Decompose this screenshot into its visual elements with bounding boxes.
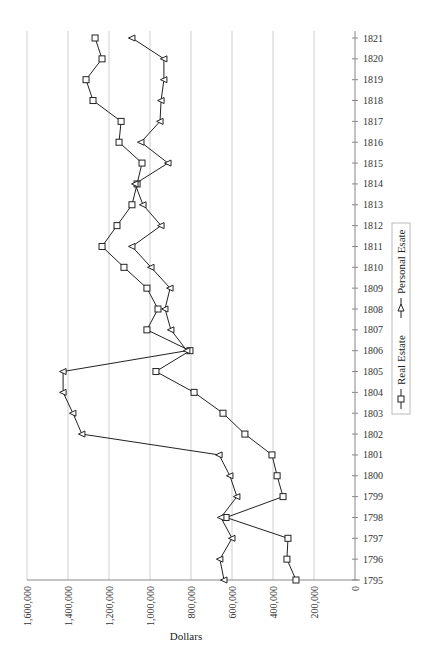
data-point-triangle bbox=[69, 410, 76, 416]
year-tick-label: 1808 bbox=[363, 304, 383, 315]
gridlines bbox=[27, 31, 314, 580]
data-point-square bbox=[274, 473, 280, 479]
data-point-square bbox=[129, 202, 135, 208]
year-tick-label: 1816 bbox=[363, 137, 383, 148]
value-axis-title: Dollars bbox=[170, 630, 202, 642]
data-point-square bbox=[121, 264, 127, 270]
data-point-square bbox=[90, 98, 96, 104]
year-tick-label: 1812 bbox=[363, 220, 383, 231]
legend-label: Personal Esate bbox=[395, 229, 407, 294]
value-tick-label: 0 bbox=[350, 586, 361, 591]
data-point-square bbox=[191, 389, 197, 395]
year-tick-label: 1795 bbox=[363, 575, 383, 586]
value-tick-label: 1,000,000 bbox=[145, 586, 156, 626]
year-tick-label: 1814 bbox=[363, 178, 383, 189]
year-tick-label: 1806 bbox=[363, 345, 383, 356]
data-point-triangle bbox=[137, 139, 144, 145]
data-point-triangle bbox=[140, 202, 147, 208]
year-tick-label: 1820 bbox=[363, 53, 383, 64]
data-point-square bbox=[83, 77, 89, 83]
legend: Real EstatePersonal Esate bbox=[392, 223, 410, 414]
data-point-square bbox=[114, 223, 120, 229]
value-tick-label: 1,600,000 bbox=[22, 586, 33, 626]
data-point-square bbox=[144, 285, 150, 291]
series bbox=[60, 35, 299, 583]
year-tick-label: 1821 bbox=[363, 33, 383, 44]
value-tick-label: 600,000 bbox=[227, 586, 238, 619]
chart: 0200,000400,000600,000800,0001,000,0001,… bbox=[0, 0, 429, 666]
data-point-square bbox=[242, 431, 248, 437]
legend-square-icon bbox=[398, 396, 404, 402]
data-point-square bbox=[155, 306, 161, 312]
data-point-square bbox=[293, 577, 299, 583]
year-tick-label: 1819 bbox=[363, 74, 383, 85]
year-tick-label: 1804 bbox=[363, 387, 383, 398]
year-tick-label: 1803 bbox=[363, 408, 383, 419]
data-point-square bbox=[99, 243, 105, 249]
year-tick-label: 1817 bbox=[363, 116, 383, 127]
legend-triangle-icon bbox=[398, 304, 404, 311]
data-point-triangle bbox=[226, 473, 233, 479]
data-point-square bbox=[92, 35, 98, 41]
year-tick-label: 1815 bbox=[363, 158, 383, 169]
year-tick-label: 1813 bbox=[363, 199, 383, 210]
year-tick-label: 1802 bbox=[363, 429, 383, 440]
data-point-triangle bbox=[128, 35, 135, 41]
year-tick-label: 1809 bbox=[363, 283, 383, 294]
year-tick-label: 1797 bbox=[363, 533, 383, 544]
value-tick-label: 1,400,000 bbox=[63, 586, 74, 626]
axes: 0200,000400,000600,000800,0001,000,0001,… bbox=[22, 31, 384, 626]
data-point-square bbox=[139, 160, 145, 166]
data-point-triangle bbox=[161, 306, 168, 312]
data-point-square bbox=[118, 118, 124, 124]
year-tick-label: 1811 bbox=[363, 241, 383, 252]
year-tick-label: 1818 bbox=[363, 95, 383, 106]
data-point-square bbox=[285, 535, 291, 541]
data-point-triangle bbox=[216, 452, 223, 458]
data-point-triangle bbox=[78, 431, 85, 437]
data-point-square bbox=[284, 556, 290, 562]
data-point-square bbox=[269, 452, 275, 458]
legend-label: Real Estate bbox=[395, 335, 407, 385]
data-point-square bbox=[144, 327, 150, 333]
value-tick-label: 1,200,000 bbox=[104, 586, 115, 626]
data-point-triangle bbox=[128, 243, 135, 249]
year-tick-label: 1796 bbox=[363, 554, 383, 565]
data-point-triangle bbox=[217, 514, 224, 520]
data-point-square bbox=[116, 139, 122, 145]
year-tick-label: 1805 bbox=[363, 366, 383, 377]
value-tick-label: 800,000 bbox=[186, 586, 197, 619]
value-tick-label: 200,000 bbox=[309, 586, 320, 619]
data-point-square bbox=[280, 494, 286, 500]
value-tick-label: 400,000 bbox=[268, 586, 279, 619]
data-point-square bbox=[99, 56, 105, 62]
year-tick-label: 1800 bbox=[363, 470, 383, 481]
year-tick-label: 1801 bbox=[363, 449, 383, 460]
data-point-square bbox=[153, 369, 159, 375]
year-tick-label: 1810 bbox=[363, 262, 383, 273]
year-tick-label: 1799 bbox=[363, 491, 383, 502]
year-tick-label: 1807 bbox=[363, 324, 383, 335]
data-point-square bbox=[220, 410, 226, 416]
data-point-triangle bbox=[216, 556, 223, 562]
year-tick-label: 1798 bbox=[363, 512, 383, 523]
